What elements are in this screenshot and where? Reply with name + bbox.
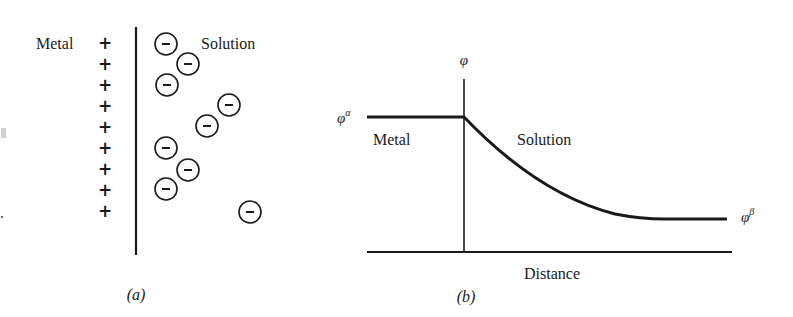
negative-ion <box>155 178 177 200</box>
positive-charges: +++++++++ <box>98 33 112 221</box>
negative-ion <box>155 33 177 55</box>
metal-label-a: Metal <box>36 35 74 52</box>
plus-charge: + <box>98 96 112 116</box>
negative-ion <box>177 53 199 75</box>
panel-a: Metal Solution +++++++++ (a) <box>36 27 261 304</box>
panel-b: φ φα φβ Metal Solution Distance (b) <box>337 52 754 306</box>
caption-a: (a) <box>127 286 146 304</box>
x-axis-label-distance: Distance <box>524 265 580 282</box>
negative-ion <box>177 159 199 181</box>
y-axis-label-phi: φ <box>460 52 468 68</box>
negative-ion <box>196 115 218 137</box>
plus-charge: + <box>98 54 112 74</box>
plus-charge: + <box>98 201 112 221</box>
negative-ion <box>155 137 177 159</box>
plus-charge: + <box>98 159 112 179</box>
phi-alpha-label: φα <box>337 107 351 126</box>
double-layer-figure: Metal Solution +++++++++ (a) φ φα φβ Met… <box>0 0 793 317</box>
plus-charge: + <box>98 117 112 137</box>
scan-artifact <box>1 128 6 138</box>
negative-ion <box>239 201 261 223</box>
phi-beta-label: φβ <box>741 206 754 225</box>
scan-artifact <box>1 216 3 218</box>
caption-b: (b) <box>457 288 476 306</box>
solution-label-a: Solution <box>201 35 255 52</box>
negative-ion <box>218 94 240 116</box>
plus-charge: + <box>98 33 112 53</box>
negative-ions <box>155 33 261 223</box>
solution-label-b: Solution <box>517 131 571 148</box>
plus-charge: + <box>98 138 112 158</box>
negative-ion <box>156 74 178 96</box>
plus-charge: + <box>98 180 112 200</box>
plus-charge: + <box>98 75 112 95</box>
metal-label-b: Metal <box>373 131 411 148</box>
